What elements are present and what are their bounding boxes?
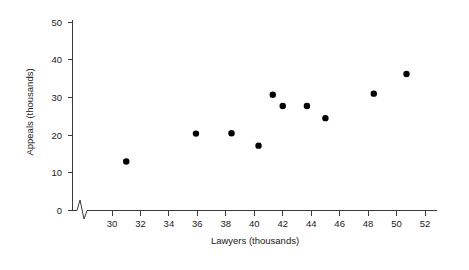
chart-canvas: 303234363840424446485052 01020304050 Law… [0,0,469,270]
data-point [228,130,234,136]
x-tick-label: 36 [192,218,203,229]
data-point [371,90,377,96]
axes-group [73,20,438,219]
data-point [255,142,261,148]
x-tick-label: 32 [135,218,146,229]
y-axis-title: Appeals (thousands) [24,68,35,155]
data-point [280,103,286,109]
x-tick-label: 40 [249,218,260,229]
data-point [270,92,276,98]
x-tick-label: 44 [306,218,317,229]
y-axis-ticks: 01020304050 [51,17,72,217]
data-point [322,115,328,121]
x-axis-break-zigzag [73,200,94,219]
x-axis-ticks: 303234363840424446485052 [107,211,431,230]
data-point [123,158,129,164]
y-tick-label: 30 [51,92,62,103]
data-point [304,103,310,109]
x-tick-label: 42 [277,218,288,229]
data-point [193,130,199,136]
y-tick-label: 50 [51,17,62,28]
x-tick-label: 52 [420,218,431,229]
data-points-layer [123,71,410,165]
y-tick-label: 0 [57,205,62,216]
y-tick-label: 20 [51,130,62,141]
x-tick-label: 50 [391,218,402,229]
x-tick-label: 38 [221,218,232,229]
y-tick-label: 10 [51,167,62,178]
x-axis-title: Lawyers (thousands) [211,235,299,246]
y-tick-label: 40 [51,54,62,65]
x-tick-label: 34 [164,218,175,229]
x-tick-label: 48 [363,218,374,229]
data-point [403,71,409,77]
scatter-plot-figure: 303234363840424446485052 01020304050 Law… [0,0,469,270]
x-tick-label: 30 [107,218,118,229]
x-tick-label: 46 [334,218,345,229]
